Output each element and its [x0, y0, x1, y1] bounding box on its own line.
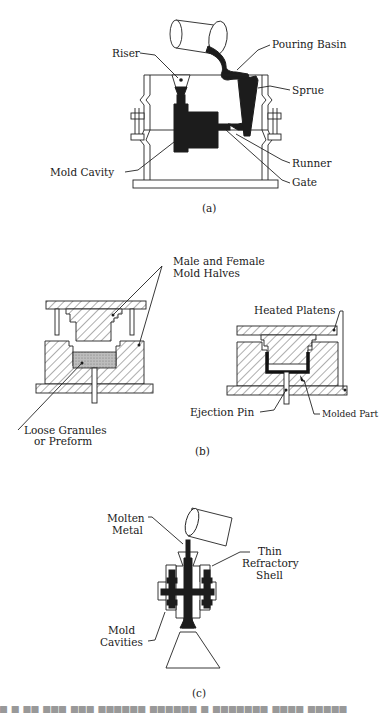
open-mold: [18, 266, 162, 430]
runner: [218, 124, 230, 130]
caption-c: (c): [192, 687, 206, 699]
label-riser: Riser: [112, 47, 141, 59]
label-thin-shell-2: Refractory: [242, 557, 299, 569]
label-runner: Runner: [292, 157, 332, 169]
label-gate: Gate: [292, 176, 317, 188]
left-clamp: [131, 108, 144, 140]
label-thin-shell-1: Thin: [258, 545, 282, 557]
label-thin-shell-3: Shell: [256, 569, 284, 581]
label-mold-cavities-2: Cavities: [100, 636, 143, 648]
label-mold-cavities-1: Mold: [108, 624, 135, 636]
label-mold-cavity: Mold Cavity: [50, 166, 114, 178]
flask-bottom-board: [133, 180, 278, 188]
label-mold-halves-2: Mold Halves: [173, 267, 240, 279]
label-ejection-pin: Ejection Pin: [190, 406, 254, 418]
label-molded-part: Molded Part: [322, 409, 379, 419]
truncated-figure-caption: ▆ ▆ ▆▆ ▆▆▆ ▆▆▆ ▆▆▆▆▆▆ ▆▆▆▆▆▆ ▆ ▆▆▆▆▆▆▆ ▆…: [0, 704, 387, 713]
figure-canvas: Riser Pouring Basin Sprue Mold Cavity Ru…: [0, 0, 387, 713]
panel-c-investment-casting: Molten Metal Thin Refractory Shell Mold …: [100, 507, 299, 699]
caption-b: (b): [195, 445, 210, 457]
label-molten-metal-1: Molten: [107, 512, 145, 524]
mold-cavity: [174, 104, 218, 152]
panel-b-compression-molding: Male and Female Mold Halves Heated Plate…: [18, 255, 379, 457]
right-clamp: [268, 108, 281, 140]
label-sprue: Sprue: [292, 84, 324, 96]
caption-a: (a): [202, 202, 216, 214]
label-loose-granules-2: or Preform: [34, 435, 92, 447]
closed-mold: [227, 311, 347, 414]
casting-tree: [161, 540, 214, 628]
label-heated-platens: Heated Platens: [254, 304, 335, 316]
panel-a-sand-casting: Riser Pouring Basin Sprue Mold Cavity Ru…: [50, 20, 347, 214]
ladle-icon: [170, 20, 229, 56]
label-pouring-basin: Pouring Basin: [272, 38, 347, 50]
label-mold-halves-1: Male and Female: [173, 255, 265, 267]
base-cone: [166, 632, 220, 668]
label-molten-metal-2: Metal: [112, 524, 143, 536]
